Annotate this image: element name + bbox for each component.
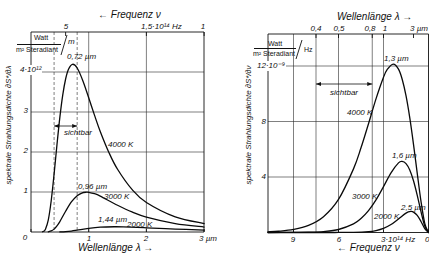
- right-top-tick-label: 0,5: [333, 24, 344, 34]
- right-peak-label-2000k: 2,5 µm: [401, 203, 426, 213]
- left-peak-label-2000k: 1,44 µm: [98, 215, 127, 225]
- left-y-tick-label: 3: [24, 106, 28, 116]
- arrowhead-right-icon: [367, 82, 372, 86]
- left-y-tick-label: 4·10¹²: [20, 65, 42, 75]
- left-top-tick-label: 1,5·10¹⁴ Hz: [141, 22, 182, 32]
- right-visible-range-label: sichtbar: [330, 88, 358, 98]
- left-y-tick-label: 1: [24, 186, 28, 196]
- left-unit-per: m: [68, 37, 75, 47]
- right-y-tick-label: 12·10⁻⁹: [257, 61, 286, 71]
- right-x-axis-title: ← Frequenz ν: [337, 243, 400, 253]
- right-curve-label-3000k: 3000 K: [352, 192, 377, 202]
- right-peak-label-4000k: 1,3 µm: [384, 54, 409, 64]
- planck-radiation-figure: ← Frequenz ν 5 1,5·10¹⁴ Hz 1 Watt m² Ste…: [0, 0, 429, 257]
- left-y-tick-label: 2: [24, 146, 28, 156]
- right-peak-label-3000k: 1,6 µm: [392, 151, 417, 161]
- left-unit-denominator: m² Steradiant: [16, 45, 58, 55]
- right-curve-label-4000k: 4000 K: [347, 108, 372, 118]
- right-top-tick-label: 0,8: [364, 24, 375, 34]
- right-top-tick-label: 3 µm: [410, 24, 428, 34]
- left-x-tick-label: 0: [23, 233, 27, 243]
- right-unit-slash: [296, 40, 302, 59]
- left-top-tick-label: 5: [64, 22, 68, 32]
- left-peak-label-4000k: 0,72 µm: [67, 52, 96, 62]
- arrowhead-left-icon: [316, 82, 321, 86]
- right-top-tick-label: 0,4: [310, 24, 321, 34]
- right-y-axis-title: spektrale Strahlungsdichte ∂S*/∂ν: [244, 40, 254, 210]
- left-curve-label-3000k: 3000 K: [104, 192, 129, 202]
- left-y-axis-title: spektrale Strahlungsdichte ∂S*/∂λ: [4, 40, 14, 210]
- left-top-axis-title: ← Frequenz ν: [98, 10, 161, 20]
- left-plot-frame: [31, 32, 204, 232]
- left-peak-label-3000k: 0,96 µm: [78, 182, 107, 192]
- left-curve-label-2000k: 2000 K: [127, 220, 152, 230]
- right-top-tick-label: 1: [383, 24, 387, 34]
- left-unit-numerator: Watt: [34, 33, 48, 43]
- left-x-axis-title: Wellenlänge λ →: [78, 243, 153, 253]
- right-y-tick-label: 8: [262, 117, 266, 127]
- right-x-tick-label: 0: [425, 235, 429, 245]
- right-x-tick-label: 9: [291, 235, 295, 245]
- right-y-tick-label: 4: [262, 172, 266, 182]
- right-unit-per: Hz: [304, 45, 313, 55]
- left-curve-label-4000k: 4000 K: [108, 140, 133, 150]
- right-curve-label-2000k: 2000 K: [374, 212, 399, 222]
- left-top-tick-label: 1: [201, 22, 205, 32]
- left-x-tick-label: 3 µm: [199, 234, 217, 244]
- right-top-axis-title: Wellenlänge λ →: [337, 12, 412, 22]
- left-visible-range-label: sichtbar: [64, 128, 92, 138]
- right-unit-denominator: m² Steradiant: [253, 49, 295, 59]
- right-curve-3000k: [268, 161, 429, 232]
